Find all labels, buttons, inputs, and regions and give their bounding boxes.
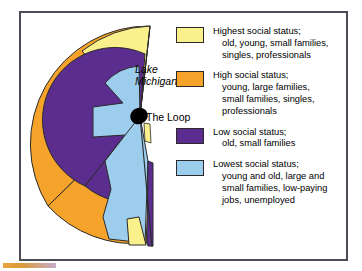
legend-item-highest: Highest social status; old, young, small… — [176, 26, 342, 61]
social-status-map-figure: Lake Michigan The Loop Highest social st… — [0, 0, 362, 271]
legend-sub-high-0: young, large families, — [213, 82, 314, 94]
legend-label-highest: Highest social status; old, young, small… — [213, 26, 328, 61]
legend-head-high: High social status; — [213, 70, 314, 82]
legend-label-low: Low social status; old, small families — [213, 127, 295, 151]
legend-swatch-highest — [176, 27, 204, 43]
legend-swatch-lowest — [176, 160, 204, 176]
legend-swatch-low — [176, 128, 204, 144]
accent-bar — [3, 263, 56, 268]
legend-sub-low-0: old, small families — [213, 138, 295, 150]
legend-sub-lowest-2: jobs, unemployed — [213, 195, 327, 207]
legend-swatch-high — [176, 71, 204, 87]
zone-highest-edge-sliver — [144, 123, 151, 143]
legend-item-lowest: Lowest social status; young and old, lar… — [176, 159, 342, 206]
legend-item-low: Low social status; old, small families — [176, 127, 342, 151]
legend-sub-lowest-0: young and old, large and — [213, 171, 327, 183]
legend-head-low: Low social status; — [213, 127, 295, 139]
legend-head-highest: Highest social status; — [213, 26, 328, 38]
legend-sub-highest-0: old, young, small families, — [213, 38, 328, 50]
legend: Highest social status; old, young, small… — [176, 26, 342, 215]
legend-label-high: High social status; young, large familie… — [213, 70, 314, 117]
legend-sub-high-1: small families, singles, — [213, 94, 314, 106]
legend-sub-highest-1: singles, professionals — [213, 50, 328, 62]
map-svg — [19, 11, 169, 261]
chicago-sector-map: Lake Michigan — [19, 11, 169, 261]
legend-sub-lowest-1: small families, low-paying — [213, 183, 327, 195]
legend-sub-high-2: professionals — [213, 106, 314, 118]
legend-item-high: High social status; young, large familie… — [176, 70, 342, 117]
legend-label-lowest: Lowest social status; young and old, lar… — [213, 159, 327, 206]
legend-head-lowest: Lowest social status; — [213, 159, 327, 171]
